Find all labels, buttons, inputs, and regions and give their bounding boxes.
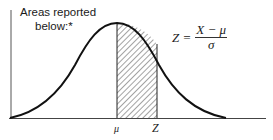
mu-label: μ xyxy=(114,123,119,134)
shaded-area xyxy=(117,20,157,118)
formula-fraction: X − μ σ xyxy=(195,23,227,52)
caption-line-1: Areas reported xyxy=(20,6,96,18)
formula-lhs: Z = xyxy=(172,30,191,46)
formula-denominator: σ xyxy=(208,38,214,52)
z-formula: Z = X − μ σ xyxy=(172,23,227,52)
formula-numerator: X − μ xyxy=(195,23,227,38)
caption-line-2: below:* xyxy=(20,19,96,33)
areas-caption: Areas reported below:* xyxy=(20,5,96,33)
z-label: Z xyxy=(152,121,159,136)
